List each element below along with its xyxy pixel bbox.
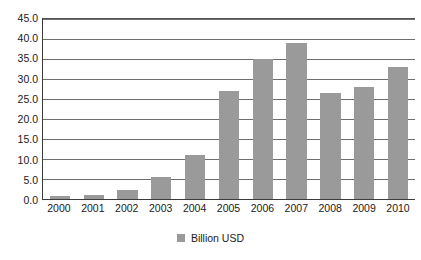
- bar-chart-figure: 45.040.035.030.025.020.015.010.05.00.0 2…: [0, 0, 421, 260]
- x-tick-label-2002: 2002: [110, 203, 144, 214]
- x-tick-label-2000: 2000: [42, 203, 76, 214]
- y-tick-label-30.0: 30.0: [18, 73, 38, 84]
- bar-2004[interactable]: [185, 155, 205, 199]
- bars-layer: [43, 19, 415, 199]
- bar-2002[interactable]: [117, 190, 137, 199]
- x-tick-label-2007: 2007: [279, 203, 313, 214]
- x-tick-label-2008: 2008: [313, 203, 347, 214]
- bar-2008[interactable]: [320, 93, 340, 199]
- x-tick-label-2003: 2003: [144, 203, 178, 214]
- bar-2000[interactable]: [50, 196, 70, 199]
- bar-slot-2001: [77, 19, 111, 199]
- bar-slot-2007: [280, 19, 314, 199]
- bar-2006[interactable]: [253, 59, 273, 199]
- y-tick-label-15.0: 15.0: [18, 134, 38, 145]
- x-tick-label-2004: 2004: [178, 203, 212, 214]
- bar-2003[interactable]: [151, 177, 171, 199]
- chart-legend: Billion USD: [0, 233, 421, 244]
- y-tick-label-20.0: 20.0: [18, 114, 38, 125]
- bar-slot-2009: [347, 19, 381, 199]
- gridline-0.0: [43, 199, 415, 200]
- x-tick-label-2001: 2001: [76, 203, 110, 214]
- bar-2007[interactable]: [286, 43, 306, 199]
- bar-slot-2005: [212, 19, 246, 199]
- x-tick-label-2005: 2005: [212, 203, 246, 214]
- plot-area: [42, 18, 415, 200]
- legend-label-billion-usd: Billion USD: [191, 233, 244, 244]
- x-tick-label-2010: 2010: [381, 203, 415, 214]
- y-tick-label-10.0: 10.0: [18, 154, 38, 165]
- bar-2005[interactable]: [219, 91, 239, 199]
- y-axis: 45.040.035.030.025.020.015.010.05.00.0: [0, 18, 38, 200]
- legend-swatch-billion-usd: [177, 234, 185, 242]
- y-tick-label-40.0: 40.0: [18, 33, 38, 44]
- bar-2010[interactable]: [388, 67, 408, 199]
- y-tick-label-5.0: 5.0: [23, 175, 38, 186]
- bar-slot-2008: [314, 19, 348, 199]
- bar-2001[interactable]: [84, 195, 104, 199]
- bar-slot-2003: [144, 19, 178, 199]
- bar-slot-2004: [178, 19, 212, 199]
- bar-2009[interactable]: [354, 87, 374, 199]
- x-tick-label-2009: 2009: [347, 203, 381, 214]
- x-axis: 2000200120022003200420052006200720082009…: [42, 203, 415, 214]
- bar-slot-2002: [111, 19, 145, 199]
- y-tick-label-35.0: 35.0: [18, 53, 38, 64]
- y-tick-label-0.0: 0.0: [23, 195, 38, 206]
- bar-slot-2006: [246, 19, 280, 199]
- y-tick-label-25.0: 25.0: [18, 94, 38, 105]
- y-tick-label-45.0: 45.0: [18, 13, 38, 24]
- bar-slot-2000: [43, 19, 77, 199]
- bar-slot-2010: [381, 19, 415, 199]
- x-tick-label-2006: 2006: [245, 203, 279, 214]
